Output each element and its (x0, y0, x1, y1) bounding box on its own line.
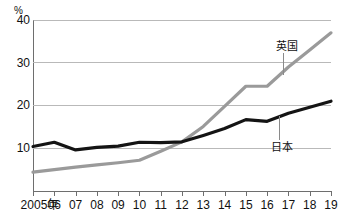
x-tick-10 (246, 191, 247, 196)
x-tick-2 (76, 191, 77, 196)
x-tick-9 (225, 191, 226, 196)
x-tick-12 (288, 191, 289, 196)
x-tick-0 (33, 191, 34, 196)
x-tick-label-10: 15 (239, 198, 252, 212)
x-tick-label-4: 09 (111, 198, 124, 212)
x-tick-4 (118, 191, 119, 196)
x-tick-14 (331, 191, 332, 196)
x-tick-1 (54, 191, 55, 196)
x-tick-13 (310, 191, 311, 196)
x-tick-label-11: 16 (260, 198, 273, 212)
x-tick-label-3: 08 (90, 198, 103, 212)
chart-container: % 40 30 20 10 英国 日本 2005年060708091011121… (0, 0, 345, 224)
x-tick-6 (161, 191, 162, 196)
x-tick-label-7: 12 (175, 198, 188, 212)
series-layer (0, 0, 345, 224)
x-axis-labels: 2005年0607080910111213141516171819 (0, 198, 345, 218)
x-tick-8 (203, 191, 204, 196)
x-tick-label-2: 07 (69, 198, 82, 212)
series-label-jp: 日本 (271, 141, 293, 153)
x-tick-label-13: 18 (303, 198, 316, 212)
x-tick-label-5: 10 (133, 198, 146, 212)
x-tick-label-8: 13 (197, 198, 210, 212)
leader-line-jp (279, 116, 280, 140)
x-tick-11 (267, 191, 268, 196)
x-tick-5 (139, 191, 140, 196)
series-label-uk: 英国 (276, 40, 298, 52)
x-tick-label-12: 17 (282, 198, 295, 212)
x-tick-3 (97, 191, 98, 196)
x-tick-7 (182, 191, 183, 196)
x-tick-label-14: 19 (324, 198, 337, 212)
leader-line-uk (283, 53, 284, 75)
x-tick-label-1: 06 (48, 198, 61, 212)
x-tick-label-9: 14 (218, 198, 231, 212)
x-tick-label-6: 11 (154, 198, 166, 212)
